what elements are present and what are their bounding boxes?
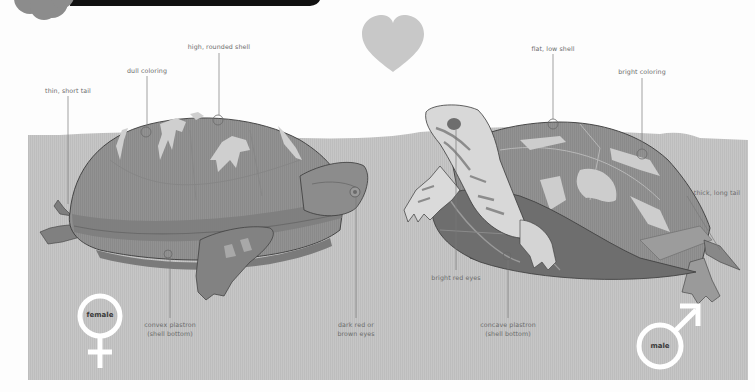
label-male-plastron: concave plastron (shell bottom) (458, 321, 558, 338)
label-female-plastron-line1: convex plastron (120, 321, 220, 330)
label-female-plastron-line2: (shell bottom) (120, 330, 220, 339)
label-male-plastron-line2: (shell bottom) (458, 330, 558, 339)
badge-icon (14, 0, 74, 20)
female-symbol-label: female (75, 311, 125, 319)
label-female-shell: high, rounded shell (166, 43, 272, 52)
label-male-tail: thick, long tail (680, 189, 754, 198)
label-male-coloring: bright coloring (592, 68, 692, 77)
turtle-sex-comparison-diagram: thin, short tail dull coloring high, rou… (0, 0, 755, 392)
male-eye (447, 118, 461, 130)
male-symbol-label: male (635, 342, 685, 350)
heart-icon (362, 15, 424, 72)
label-female-eyes-line1: dark red or (306, 321, 406, 330)
label-female-plastron: convex plastron (shell bottom) (120, 321, 220, 338)
label-female-eyes-line2: brown eyes (306, 330, 406, 339)
header (14, 0, 320, 20)
label-female-eyes: dark red or brown eyes (306, 321, 406, 338)
header-bar (70, 0, 320, 6)
label-female-coloring: dull coloring (100, 67, 194, 76)
label-male-eyes: bright red eyes (406, 274, 506, 283)
label-male-plastron-line1: concave plastron (458, 321, 558, 330)
label-female-tail: thin, short tail (18, 87, 118, 96)
label-male-shell: flat, low shell (503, 45, 603, 54)
